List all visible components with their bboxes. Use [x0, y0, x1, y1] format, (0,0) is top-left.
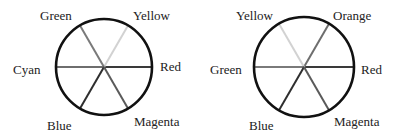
spoke-green — [80, 25, 104, 67]
label-red: Red — [160, 59, 181, 74]
spoke-orange — [304, 24, 329, 67]
spoke-blue — [80, 67, 104, 109]
label-yellow: Yellow — [236, 8, 274, 23]
spoke-yellow — [279, 24, 304, 67]
spoke-magenta — [104, 67, 128, 109]
rgb-color-wheel: RedYellowGreenCyanBlueMagenta — [13, 8, 181, 133]
ryb-color-wheel: RedOrangeYellowGreenBlueMagenta — [210, 8, 382, 133]
color-wheels-diagram: RedYellowGreenCyanBlueMagentaRedOrangeYe… — [0, 0, 393, 137]
label-green: Green — [210, 62, 242, 77]
label-yellow: Yellow — [133, 8, 171, 23]
label-magenta: Magenta — [134, 114, 180, 129]
label-cyan: Cyan — [13, 62, 41, 77]
label-blue: Blue — [249, 118, 274, 133]
spoke-yellow — [104, 25, 128, 67]
label-red: Red — [361, 62, 382, 77]
spoke-magenta — [304, 67, 329, 110]
label-blue: Blue — [47, 118, 72, 133]
label-orange: Orange — [333, 8, 371, 23]
label-green: Green — [40, 8, 72, 23]
spoke-blue — [279, 67, 304, 110]
label-magenta: Magenta — [334, 114, 380, 129]
